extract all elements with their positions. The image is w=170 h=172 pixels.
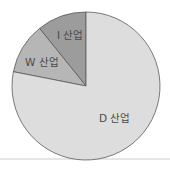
pie-slices: [12, 12, 160, 160]
slice-label-i: I 산업: [57, 29, 83, 41]
slice-label-d: D 산업: [99, 112, 130, 124]
slice-label-w: W 산업: [25, 56, 59, 68]
pie-chart: I 산업 W 산업 D 산업: [0, 0, 170, 172]
